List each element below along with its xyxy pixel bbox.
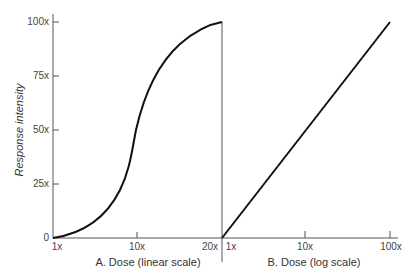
x-tick-label-a-10x: 10x bbox=[129, 241, 145, 252]
y-axis-title: Response intensity bbox=[13, 82, 25, 176]
dose-response-chart: 100x 75x 50x 25x 0 Response intensity 1x… bbox=[0, 0, 416, 278]
x-axis-title-a: A. Dose (linear scale) bbox=[95, 256, 200, 268]
curve-log-scale bbox=[222, 22, 390, 238]
x-tick-label-a-20x: 20x bbox=[202, 241, 218, 252]
x-tick-label-b-1x: 1x bbox=[226, 241, 237, 252]
x-tick-label-b-10x: 10x bbox=[297, 241, 313, 252]
y-tick-label-50: 50x bbox=[33, 124, 49, 135]
y-tick-label-100: 100x bbox=[27, 16, 49, 27]
y-tick-label-75: 75x bbox=[33, 70, 49, 81]
y-tick-label-25: 25x bbox=[33, 178, 49, 189]
x-axis-title-b: B. Dose (log scale) bbox=[268, 256, 361, 268]
curve-linear-scale bbox=[53, 22, 222, 238]
x-tick-label-a-1x: 1x bbox=[52, 241, 63, 252]
x-tick-label-b-100x: 100x bbox=[380, 241, 402, 252]
y-tick-label-0: 0 bbox=[43, 232, 49, 243]
